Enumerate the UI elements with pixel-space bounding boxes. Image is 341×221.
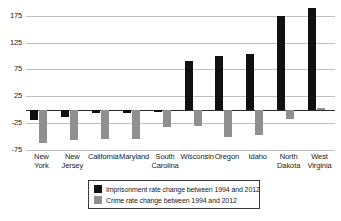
bar-imprisonment [308, 8, 316, 110]
bar-imprisonment [246, 54, 254, 109]
bar-group [119, 5, 150, 150]
bar-group [304, 5, 335, 150]
bar-crime [255, 110, 263, 136]
bar-group [88, 5, 119, 150]
bar-chart: 1751257525-25-75 NewYorkNewJerseyCalifor… [0, 0, 341, 221]
bar-crime [101, 110, 109, 139]
bar-crime [224, 110, 232, 137]
y-tick-label: -75 [0, 146, 22, 154]
y-tick-label: 125 [0, 39, 22, 47]
bar-imprisonment [123, 110, 131, 113]
x-tick-label-line: Wisconsin [181, 152, 212, 161]
bar-imprisonment [92, 110, 100, 114]
legend-label-crime: Crime rate change between 1994 and 2012 [106, 196, 237, 205]
x-tick-label-line: Jersey [57, 161, 88, 170]
bar-group [150, 5, 181, 150]
bar-crime [194, 110, 202, 127]
y-tick-label: 25 [0, 92, 22, 100]
x-tick-label-line: Dakota [273, 161, 304, 170]
x-tick-label-line: Carolina [150, 161, 181, 170]
x-tick-label-line: South [150, 152, 181, 161]
legend-swatch-imprisonment-icon [94, 185, 102, 193]
x-tick-label: Wisconsin [181, 152, 212, 161]
bar-group [211, 5, 242, 150]
bar-group [181, 5, 212, 150]
x-tick-label: Oregon [211, 152, 242, 161]
x-tick-label-line: New [26, 152, 57, 161]
legend-item-imprisonment: Imprisonment rate change between 1994 an… [94, 184, 254, 194]
x-tick-label: NorthDakota [273, 152, 304, 170]
x-tick-label: Maryland [119, 152, 150, 161]
x-tick-label: California [88, 152, 119, 161]
x-tick-label: Idaho [242, 152, 273, 161]
y-tick-label: 75 [0, 65, 22, 73]
bar-crime [39, 110, 47, 143]
bar-imprisonment [30, 110, 38, 121]
x-tick-label: NewJersey [57, 152, 88, 170]
bar-crime [286, 110, 294, 119]
x-tick-label-line: North [273, 152, 304, 161]
x-tick-label-line: West [304, 152, 335, 161]
bar-crime [317, 108, 325, 110]
bar-imprisonment [215, 56, 223, 110]
x-tick-label-line: Virginia [304, 161, 335, 170]
bar-imprisonment [154, 110, 162, 113]
gridline--75 [26, 150, 335, 151]
bar-group [242, 5, 273, 150]
bar-groups [26, 5, 335, 150]
plot-area [26, 5, 335, 150]
legend-label-imprisonment: Imprisonment rate change between 1994 an… [106, 185, 260, 194]
y-tick-label: -25 [0, 119, 22, 127]
bar-crime [163, 110, 171, 128]
x-tick-label: NewYork [26, 152, 57, 170]
x-tick-label-line: California [88, 152, 119, 161]
chart-legend: Imprisonment rate change between 1994 an… [88, 180, 260, 209]
x-tick-label-line: Idaho [242, 152, 273, 161]
legend-swatch-crime-icon [94, 196, 102, 204]
y-tick-label: 175 [0, 12, 22, 20]
bar-imprisonment [185, 61, 193, 109]
x-tick-label-line: York [26, 161, 57, 170]
x-axis-labels: NewYorkNewJerseyCaliforniaMarylandSouthC… [26, 152, 335, 174]
x-tick-label-line: New [57, 152, 88, 161]
bar-crime [70, 110, 78, 141]
x-tick-label: SouthCarolina [150, 152, 181, 170]
bar-group [273, 5, 304, 150]
x-tick-label: WestVirginia [304, 152, 335, 170]
bar-crime [132, 110, 140, 139]
bar-group [26, 5, 57, 150]
bar-imprisonment [61, 110, 69, 117]
bar-group [57, 5, 88, 150]
legend-item-crime: Crime rate change between 1994 and 2012 [94, 195, 254, 205]
x-tick-label-line: Oregon [211, 152, 242, 161]
bar-imprisonment [277, 16, 285, 110]
x-tick-label-line: Maryland [119, 152, 150, 161]
